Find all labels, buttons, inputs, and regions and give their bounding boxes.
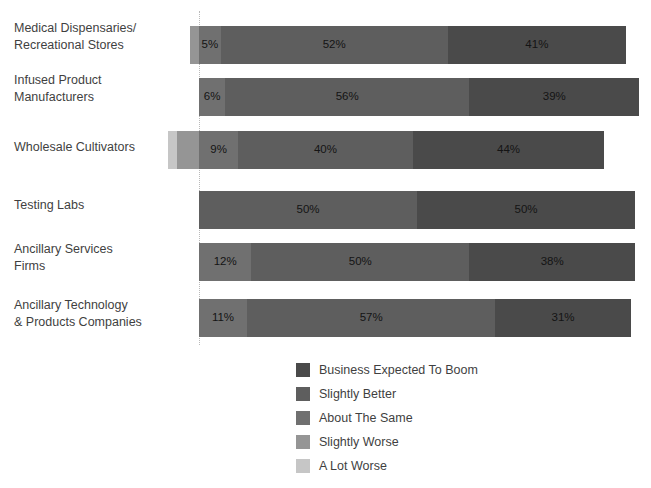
bar-segment[interactable]: 50% bbox=[251, 243, 469, 281]
bar-segment[interactable]: 9% bbox=[199, 131, 238, 169]
legend-label: About The Same bbox=[319, 412, 413, 425]
bar-segment-value: 38% bbox=[541, 256, 564, 268]
stacked-bar[interactable]: 5%52%41% bbox=[190, 26, 626, 64]
bar-segment[interactable]: 5% bbox=[199, 26, 221, 64]
legend-swatch-icon bbox=[296, 411, 310, 425]
legend-item[interactable]: About The Same bbox=[296, 406, 636, 430]
bar-segment-value: 39% bbox=[543, 91, 566, 103]
legend-swatch-icon bbox=[296, 363, 310, 377]
bar-segment-value: 40% bbox=[314, 144, 337, 156]
stacked-bar[interactable]: 9%40%44% bbox=[168, 131, 604, 169]
bar-segment[interactable] bbox=[177, 131, 199, 169]
bar-segment-value: 57% bbox=[360, 312, 383, 324]
legend-swatch-icon bbox=[296, 435, 310, 449]
legend-label: Slightly Worse bbox=[319, 436, 399, 449]
bar-segment-value: 6% bbox=[204, 91, 221, 103]
category-label: Wholesale Cultivators bbox=[14, 139, 190, 156]
bar-segment[interactable]: 11% bbox=[199, 299, 247, 337]
bar-segment[interactable]: 6% bbox=[199, 78, 225, 116]
stacked-bar[interactable]: 6%56%39% bbox=[199, 78, 639, 116]
bar-segment-value: 56% bbox=[336, 91, 359, 103]
legend-item[interactable]: Business Expected To Boom bbox=[296, 358, 636, 382]
bar-segment[interactable]: 40% bbox=[238, 131, 412, 169]
category-label: Ancillary Services Firms bbox=[14, 241, 190, 274]
category-label: Medical Dispensaries/ Recreational Store… bbox=[14, 20, 190, 53]
category-label: Infused Product Manufacturers bbox=[14, 72, 190, 105]
bar-segment-value: 50% bbox=[349, 256, 372, 268]
legend-label: Business Expected To Boom bbox=[319, 364, 478, 377]
bar-segment[interactable]: 39% bbox=[469, 78, 639, 116]
bar-segment[interactable]: 38% bbox=[469, 243, 635, 281]
bar-segment[interactable]: 56% bbox=[225, 78, 469, 116]
legend-item[interactable]: A Lot Worse bbox=[296, 454, 636, 478]
bar-segment-value: 9% bbox=[210, 144, 227, 156]
bar-segment[interactable]: 57% bbox=[247, 299, 496, 337]
legend-label: A Lot Worse bbox=[319, 460, 387, 473]
bar-segment[interactable]: 41% bbox=[448, 26, 627, 64]
stacked-bar[interactable]: 11%57%31% bbox=[199, 299, 631, 337]
bar-segment[interactable] bbox=[168, 131, 177, 169]
bar-segment[interactable]: 44% bbox=[413, 131, 605, 169]
bar-segment-value: 44% bbox=[497, 144, 520, 156]
bar-segment[interactable]: 52% bbox=[221, 26, 448, 64]
stacked-bar-chart: Medical Dispensaries/ Recreational Store… bbox=[0, 0, 651, 488]
stacked-bar[interactable]: 50%50% bbox=[199, 191, 635, 229]
category-label: Testing Labs bbox=[14, 197, 190, 214]
bar-segment-value: 31% bbox=[552, 312, 575, 324]
legend-item[interactable]: Slightly Worse bbox=[296, 430, 636, 454]
plot-area: Medical Dispensaries/ Recreational Store… bbox=[0, 11, 651, 345]
bar-segment-value: 5% bbox=[202, 39, 219, 51]
bar-segment[interactable]: 31% bbox=[495, 299, 630, 337]
stacked-bar[interactable]: 12%50%38% bbox=[199, 243, 635, 281]
legend-label: Slightly Better bbox=[319, 388, 396, 401]
bar-segment[interactable]: 50% bbox=[199, 191, 417, 229]
chart-legend: Business Expected To BoomSlightly Better… bbox=[296, 358, 636, 478]
legend-item[interactable]: Slightly Better bbox=[296, 382, 636, 406]
legend-swatch-icon bbox=[296, 387, 310, 401]
legend-swatch-icon bbox=[296, 459, 310, 473]
bar-segment[interactable] bbox=[190, 26, 199, 64]
bar-segment[interactable]: 12% bbox=[199, 243, 251, 281]
bar-segment-value: 12% bbox=[214, 256, 237, 268]
bar-segment-value: 50% bbox=[296, 204, 319, 216]
bar-segment[interactable]: 50% bbox=[417, 191, 635, 229]
bar-segment-value: 41% bbox=[525, 39, 548, 51]
bar-segment-value: 52% bbox=[323, 39, 346, 51]
category-label: Ancillary Technology & Products Companie… bbox=[14, 297, 190, 330]
bar-segment-value: 50% bbox=[514, 204, 537, 216]
chart-title-strip bbox=[0, 0, 651, 11]
bar-segment-value: 11% bbox=[212, 312, 234, 324]
